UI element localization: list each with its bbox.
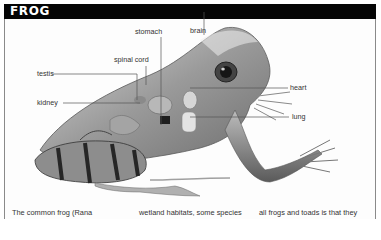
label-heart: heart bbox=[290, 84, 306, 92]
body-text-column-3: all frogs and toads is that they bbox=[259, 208, 357, 217]
label-brain: brain bbox=[190, 27, 206, 35]
organ-heart bbox=[183, 91, 197, 109]
frog-front-leg bbox=[225, 110, 322, 182]
body-text-column-1: The common frog (Rana bbox=[12, 208, 92, 217]
organ-lung bbox=[182, 112, 196, 132]
label-testis: testis bbox=[37, 70, 54, 78]
body-text-column-2: wetland habitats, some species bbox=[139, 208, 242, 217]
label-lung: lung bbox=[292, 113, 306, 121]
label-stomach: stomach bbox=[135, 28, 162, 36]
organ-stomach bbox=[148, 96, 172, 114]
label-spinal-cord: spinal cord bbox=[114, 56, 149, 64]
label-kidney: kidney bbox=[37, 99, 58, 107]
